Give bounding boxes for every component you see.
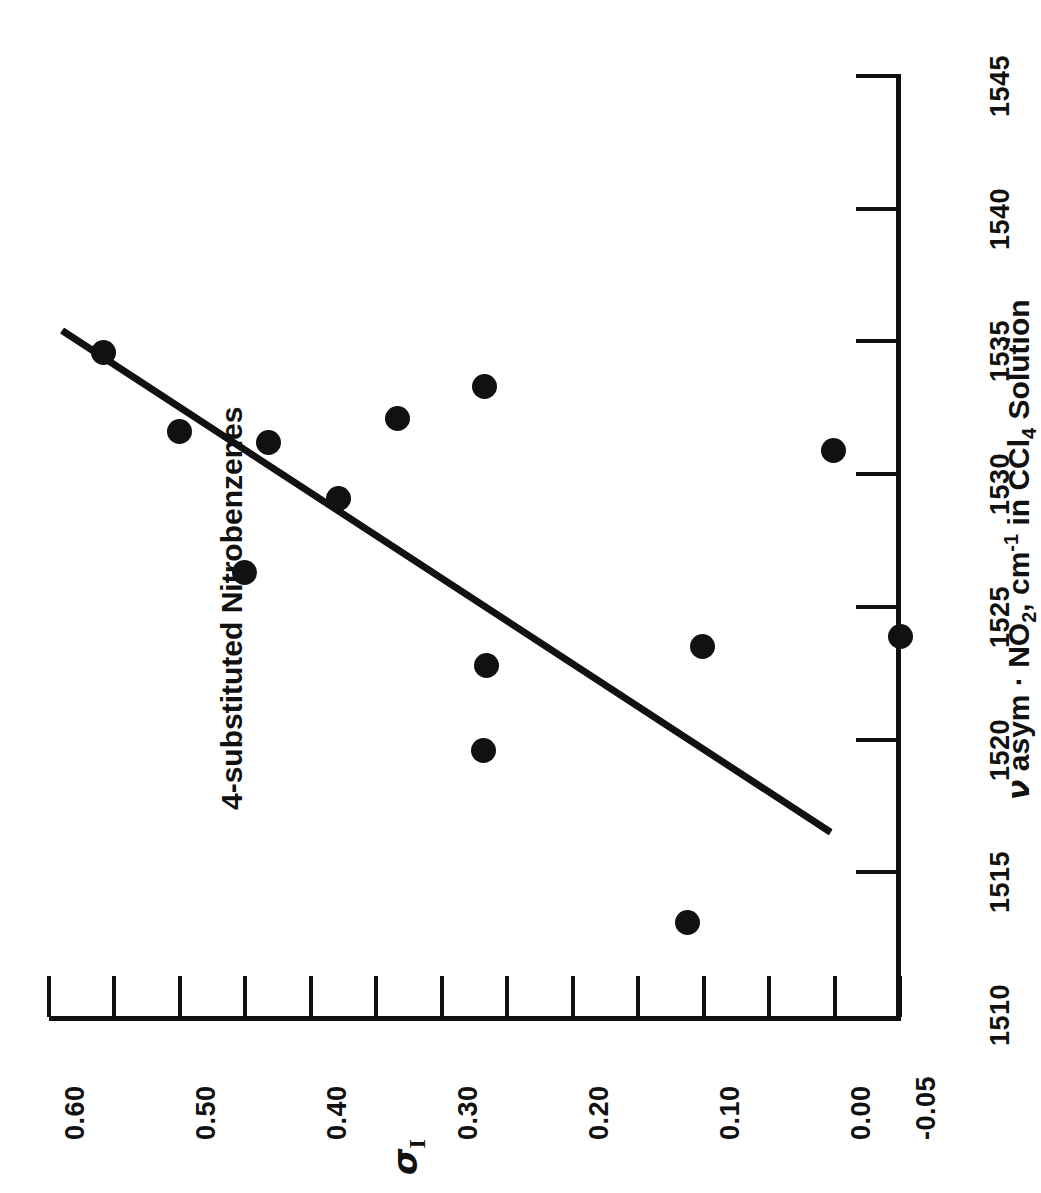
sigma-tick <box>309 976 313 1017</box>
sigma-tick-label: 0.50 <box>191 1085 222 1140</box>
y-axis-title: σI <box>385 1139 431 1175</box>
data-point <box>91 340 116 365</box>
sigma-tick <box>243 976 247 1017</box>
nu-tick <box>856 207 897 211</box>
sigma-tick-label: 0.60 <box>60 1085 91 1140</box>
x-axis-title-end: Solution <box>1002 299 1035 427</box>
sigma-tick-label: 0.30 <box>453 1085 484 1140</box>
data-point <box>167 419 192 444</box>
sigma-symbol: σ <box>385 1149 425 1175</box>
sigma-tick <box>636 976 640 1017</box>
sigma-axis-line <box>49 1016 901 1021</box>
data-point <box>256 430 281 455</box>
sigma-tick <box>571 976 575 1017</box>
data-point <box>326 486 351 511</box>
data-point <box>471 738 496 763</box>
nu-tick <box>856 870 897 874</box>
nu-tick <box>856 738 897 742</box>
nu-symbol: ν <box>1001 780 1036 800</box>
nu-axis-line <box>896 74 901 1020</box>
sigma-tick <box>702 976 706 1017</box>
nu-tick <box>856 339 897 343</box>
data-point <box>821 438 846 463</box>
x-axis-title-sup-neg1: -1 <box>1000 534 1022 552</box>
data-point <box>472 374 497 399</box>
x-axis-title-sub-4: 4 <box>1018 428 1040 439</box>
x-axis-title-mid2: , cm <box>1002 552 1035 612</box>
sigma-tick <box>112 976 116 1017</box>
nu-tick-label: 1545 <box>985 55 1016 117</box>
plot-title: 4-substituted Nitrobenzenes <box>215 407 249 810</box>
nu-tick-label: 1540 <box>985 188 1016 250</box>
nu-tick-label: 1510 <box>985 984 1016 1046</box>
sigma-tick <box>374 976 378 1017</box>
sigma-tick-label: 0.40 <box>322 1085 353 1140</box>
x-axis-title: ν asym · NO2, cm-1 in CCl4 Solution <box>1000 299 1041 800</box>
data-point <box>690 634 715 659</box>
nu-tick-label: 1515 <box>985 851 1016 913</box>
x-axis-title-tail: in CCl <box>1002 439 1035 534</box>
x-axis-title-mid: asym · NO <box>1002 623 1035 780</box>
data-point <box>474 653 499 678</box>
sigma-tick-label: -0.05 <box>911 1076 942 1140</box>
sigma-tick <box>767 976 771 1017</box>
sigma-tick <box>47 976 51 1017</box>
sigma-tick <box>178 976 182 1017</box>
sigma-tick <box>440 976 444 1017</box>
sigma-tick <box>505 976 509 1017</box>
nu-tick <box>856 605 897 609</box>
data-point <box>888 624 913 649</box>
sigma-tick <box>833 976 837 1017</box>
sigma-tick-label: 0.10 <box>715 1085 746 1140</box>
nu-tick <box>856 472 897 476</box>
sigma-tick-label: 0.00 <box>846 1085 877 1140</box>
data-point <box>675 910 700 935</box>
regression-line-segment <box>60 328 832 836</box>
nu-tick <box>856 74 897 78</box>
sigma-subscript-i: I <box>404 1139 430 1148</box>
data-point <box>385 406 410 431</box>
sigma-tick-label: 0.20 <box>584 1085 615 1140</box>
x-axis-title-sub-2: 2 <box>1018 612 1040 623</box>
